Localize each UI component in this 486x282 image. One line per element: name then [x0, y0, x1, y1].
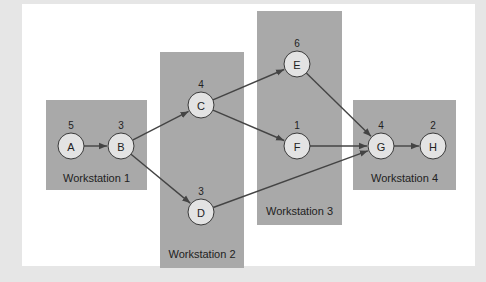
- workstation-label: Workstation 3: [266, 205, 333, 217]
- workstation-label: Workstation 1: [63, 172, 130, 184]
- task-label: E: [293, 59, 300, 71]
- task-time: 5: [68, 120, 74, 131]
- task-label: F: [294, 141, 301, 153]
- task-time: 4: [198, 79, 204, 90]
- task-time: 4: [378, 120, 384, 131]
- precedence-diagram: Workstation 1Workstation 2Workstation 3W…: [0, 0, 486, 282]
- task-label: C: [197, 100, 205, 112]
- task-time: 6: [294, 38, 300, 49]
- task-label: G: [377, 141, 386, 153]
- task-time: 2: [430, 120, 436, 131]
- workstation-label: Workstation 2: [168, 248, 235, 260]
- task-time: 1: [294, 120, 300, 131]
- workstation-label: Workstation 4: [371, 172, 438, 184]
- task-label: A: [67, 141, 75, 153]
- task-time: 3: [198, 186, 204, 197]
- task-label: B: [117, 141, 124, 153]
- task-label: D: [197, 207, 205, 219]
- task-time: 3: [118, 120, 124, 131]
- task-label: H: [429, 141, 437, 153]
